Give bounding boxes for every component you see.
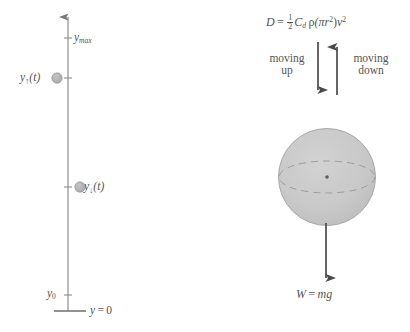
label-y-downward: y↓(t) — [84, 180, 104, 194]
label-drag-equation: D = 12Cd ρ(πr2)v2 — [266, 14, 346, 31]
physics-figure: ymax y↑(t) y↓(t) y0 y = 0 D = 12Cd ρ(πr2… — [0, 0, 410, 332]
label-moving-up: moving up — [261, 52, 313, 76]
sphere-center-dot — [325, 175, 329, 179]
label-ground-level: y = 0 — [90, 304, 112, 316]
label-y-initial: y0 — [47, 287, 56, 301]
label-weight-equation: W = mg — [296, 288, 332, 301]
label-y-max: ymax — [74, 31, 92, 45]
force-diagram-group — [279, 42, 376, 278]
marker-ball-upward — [52, 73, 62, 83]
one-half-fraction: 12 — [287, 14, 293, 31]
label-y-upward: y↑(t) — [20, 71, 40, 85]
label-moving-down: moving down — [342, 52, 400, 76]
diagram-vector-layer — [0, 0, 410, 332]
y-axis-group — [52, 17, 86, 311]
